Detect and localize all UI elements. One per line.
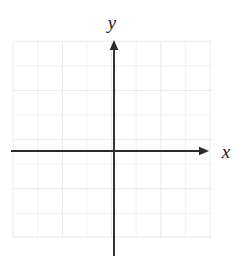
x-axis-label: x <box>221 141 231 162</box>
coordinate-grid-svg: x y <box>0 0 245 272</box>
coordinate-plane-figure: x y <box>0 0 245 272</box>
y-axis-label: y <box>106 12 117 33</box>
